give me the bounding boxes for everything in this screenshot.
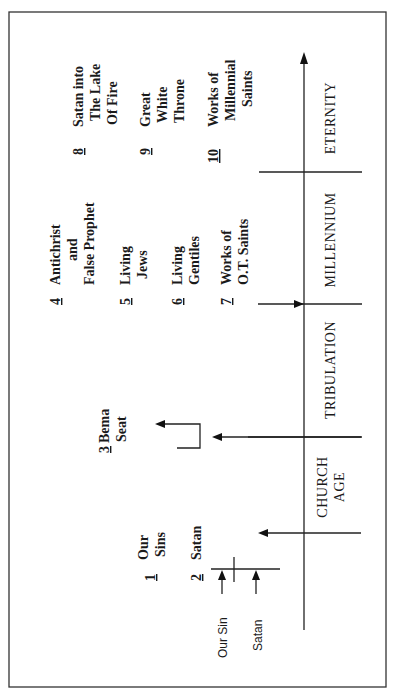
judgment-7-line2: O.T. Saints bbox=[236, 218, 251, 285]
judgment-10-line3: Saints bbox=[240, 70, 255, 107]
judgment-8-line1: Satan into bbox=[71, 66, 86, 127]
millennium-arrow-icon bbox=[294, 300, 304, 308]
judgment-5-line2: Jews bbox=[135, 250, 150, 279]
period-millennium: MILLENNIUM bbox=[323, 192, 338, 287]
judgment-3-line2: Seat bbox=[114, 416, 129, 442]
judgment-3-number: 3 bbox=[97, 446, 112, 453]
satan-arrow-icon bbox=[252, 570, 260, 580]
church-age-arrow-icon bbox=[258, 529, 268, 537]
our-sin-arrow-icon bbox=[218, 570, 226, 580]
judgment-3-line1: Bema bbox=[97, 409, 112, 443]
judgment-7-line1: Works of bbox=[219, 230, 234, 285]
tribulation-arrow-icon bbox=[212, 433, 222, 441]
period-age: AGE bbox=[332, 472, 347, 502]
judgment-4-line3: False Prophet bbox=[82, 202, 97, 285]
judgment-1-line2: Sins bbox=[153, 532, 168, 557]
judgment-5-number: 5 bbox=[118, 298, 133, 305]
judgment-10-line1: Works of bbox=[206, 72, 221, 127]
cross-label-our-sin: Our Sin bbox=[216, 617, 230, 658]
judgment-7-number: 7 bbox=[219, 298, 234, 305]
judgment-4-line1: Antichrist bbox=[48, 224, 63, 285]
judgment-8-line2: The Lake bbox=[88, 64, 103, 121]
judgment-9-line2: White bbox=[155, 86, 170, 123]
judgment-2-line1: Satan bbox=[189, 526, 204, 560]
cross-label-satan: Satan bbox=[251, 620, 265, 651]
judgment-6-number: 6 bbox=[170, 298, 185, 305]
bema-arrow-icon bbox=[155, 420, 165, 428]
judgment-5-line1: Living bbox=[118, 246, 133, 285]
judgment-4-line2: and bbox=[65, 238, 80, 261]
judgment-6-line2: Gentiles bbox=[187, 235, 202, 285]
period-eternity: ETERNITY bbox=[323, 82, 338, 154]
judgment-4-number: 4 bbox=[48, 298, 63, 305]
judgment-9-number: 9 bbox=[138, 148, 153, 155]
judgment-9-line1: Great bbox=[138, 92, 153, 127]
judgment-10-number: 10 bbox=[206, 149, 221, 163]
judgments-diagram: ETERNITY MILLENNIUM TRIBULATION CHURCH A… bbox=[0, 0, 395, 696]
judgment-10-line2: Millennial bbox=[223, 59, 238, 121]
period-tribulation: TRIBULATION bbox=[323, 321, 338, 419]
period-church: CHURCH bbox=[315, 456, 330, 517]
timeline-arrow-icon bbox=[300, 52, 308, 64]
judgment-9-line3: Throne bbox=[172, 79, 187, 123]
judgment-1-number: 1 bbox=[143, 574, 158, 581]
judgment-6-line1: Living bbox=[170, 246, 185, 285]
judgment-1-line1: Our bbox=[136, 535, 151, 560]
bema-bracket bbox=[163, 424, 200, 448]
judgment-8-line3: Of Fire bbox=[105, 81, 120, 125]
judgment-2-number: 2 bbox=[189, 574, 204, 581]
judgment-8-number: 8 bbox=[71, 148, 86, 155]
